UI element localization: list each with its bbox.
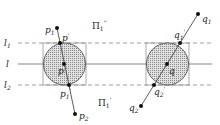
point-q2	[139, 104, 143, 108]
geometry-diagram: l1 l l2 Π1'' Π1' p1 p' p p1' p2 q1 q1' q…	[0, 0, 220, 125]
label-q2: q2	[129, 103, 139, 114]
label-pi-upper: Π1''	[92, 19, 107, 32]
point-p2	[73, 112, 77, 116]
label-p1-prime: p1'	[60, 87, 72, 100]
label-q2-prime: q2'	[154, 85, 166, 98]
label-l2: l2	[4, 80, 11, 91]
point-p1	[55, 26, 59, 30]
label-p: p	[58, 66, 64, 76]
label-l1: l1	[4, 38, 11, 49]
label-p1: p1	[45, 25, 55, 36]
label-q1: q1	[202, 14, 212, 25]
point-q1	[196, 12, 200, 16]
right-figure	[139, 12, 200, 108]
label-pi-lower: Π1'	[98, 96, 112, 109]
label-p-prime: p'	[62, 32, 70, 43]
label-p2: p2	[79, 111, 89, 122]
label-q1-prime: q1'	[174, 28, 186, 41]
label-l: l	[6, 59, 9, 69]
point-q1-prime	[178, 41, 182, 45]
label-q: q	[169, 66, 175, 76]
